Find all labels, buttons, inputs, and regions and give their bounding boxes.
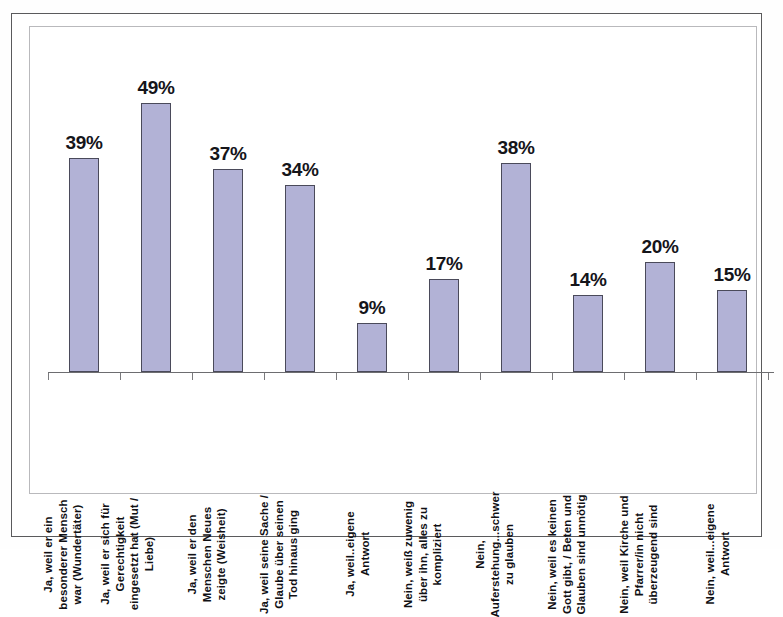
bar-slot: 37% — [192, 40, 264, 372]
chart-outer-frame: 39%49%37%34%9%17%38%14%20%15% Ja, weil e… — [11, 13, 762, 537]
x-axis-category-label: Ja, weil er denMenschen Neueszeigte (Wei… — [192, 383, 264, 558]
bar-slot: 15% — [696, 40, 768, 372]
x-axis-tick — [768, 373, 769, 380]
category-label-text: Nein,Auferstehung...schwerzu glauben — [473, 491, 517, 617]
bar-value-label: 49% — [120, 77, 192, 99]
bar-slot: 17% — [408, 40, 480, 372]
x-axis-category-label: Ja, weil er sich fürGerechtigkeiteingese… — [120, 383, 192, 558]
x-axis-tick — [264, 373, 265, 380]
category-label-text: Nein, weil es keinenGott gibt, / Beten u… — [545, 494, 589, 614]
bar — [717, 290, 747, 373]
bar — [69, 158, 99, 373]
x-axis-category-label: Nein, weil es keinenGott gibt, / Beten u… — [552, 383, 624, 558]
bar-slot: 34% — [264, 40, 336, 372]
bar — [501, 163, 531, 372]
bar — [645, 262, 675, 372]
bar-slot: 14% — [552, 40, 624, 372]
plot-area: 39%49%37%34%9%17%38%14%20%15% — [48, 40, 774, 372]
x-axis-category-label: Nein, weiß zuwenigüber ihn, alles zukomp… — [408, 383, 480, 558]
category-label-text: Ja, weil er einbesonderer Menschwar (Wun… — [41, 499, 85, 609]
bar-slot: 38% — [480, 40, 552, 372]
bar — [429, 279, 459, 373]
x-axis-category-label: Nein, weil...eigeneAntwort — [696, 383, 768, 558]
x-axis-tick — [192, 373, 193, 380]
bar — [285, 185, 315, 372]
category-label-text: Ja, weil er denMenschen Neueszeigte (Wei… — [185, 506, 229, 601]
x-axis-tick — [408, 373, 409, 380]
bar-value-label: 20% — [624, 236, 696, 258]
x-axis-category-label: Ja, weil seine Sache /Glaube über seinen… — [264, 383, 336, 558]
bar-value-label: 34% — [264, 159, 336, 181]
bar-slot: 39% — [48, 40, 120, 372]
category-label-text: Nein, weil Kirche undPfarrer/in nichtübe… — [617, 495, 661, 613]
x-axis-tick — [624, 373, 625, 380]
bar — [573, 295, 603, 372]
x-axis-tick — [48, 373, 49, 380]
bar-value-label: 17% — [408, 253, 480, 275]
category-label-text: Nein, weil...eigeneAntwort — [703, 504, 732, 605]
bar — [141, 103, 171, 373]
bar-value-label: 38% — [480, 137, 552, 159]
x-axis-tick — [336, 373, 337, 380]
bar-value-label: 14% — [552, 269, 624, 291]
bar-slot: 49% — [120, 40, 192, 372]
bar-value-label: 37% — [192, 143, 264, 165]
bar — [357, 323, 387, 373]
bar-value-label: 9% — [336, 297, 408, 319]
x-axis-category-label: Nein,Auferstehung...schwerzu glauben — [480, 383, 552, 558]
chart-plot-frame: 39%49%37%34%9%17%38%14%20%15% Ja, weil e… — [29, 26, 757, 494]
x-axis-category-label: Ja, weil..eigeneAntwort — [336, 383, 408, 558]
x-axis-tick — [120, 373, 121, 380]
bar-value-label: 15% — [696, 264, 768, 286]
bar-slot: 9% — [336, 40, 408, 372]
bar-slot: 20% — [624, 40, 696, 372]
x-axis-ticks — [48, 373, 774, 381]
x-axis-tick — [552, 373, 553, 380]
category-label-text: Ja, weil..eigeneAntwort — [343, 511, 372, 596]
x-axis-tick — [696, 373, 697, 380]
category-label-text: Ja, weil seine Sache /Glaube über seinen… — [257, 494, 301, 613]
x-axis-tick — [480, 373, 481, 380]
x-axis-category-label: Nein, weil Kirche undPfarrer/in nichtübe… — [624, 383, 696, 558]
x-axis-category-labels: Ja, weil er einbesonderer Menschwar (Wun… — [48, 383, 774, 558]
category-label-text: Nein, weiß zuwenigüber ihn, alles zukomp… — [401, 500, 445, 607]
bar — [213, 169, 243, 373]
bar-value-label: 39% — [48, 132, 120, 154]
category-label-text: Ja, weil er sich fürGerechtigkeiteingese… — [98, 498, 156, 611]
